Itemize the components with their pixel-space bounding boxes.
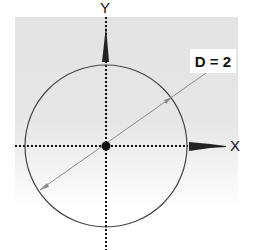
x-axis-arrow-icon xyxy=(189,142,226,151)
y-axis-arrow-icon xyxy=(102,26,109,62)
y-axis-label: Y xyxy=(100,0,110,15)
x-axis-label: X xyxy=(230,138,240,153)
diameter-label: D = 2 xyxy=(190,49,236,73)
origin-point xyxy=(102,142,111,151)
diameter-line xyxy=(40,73,206,190)
circle-diagram xyxy=(0,0,254,250)
diameter-arrow-end-icon xyxy=(164,97,172,104)
